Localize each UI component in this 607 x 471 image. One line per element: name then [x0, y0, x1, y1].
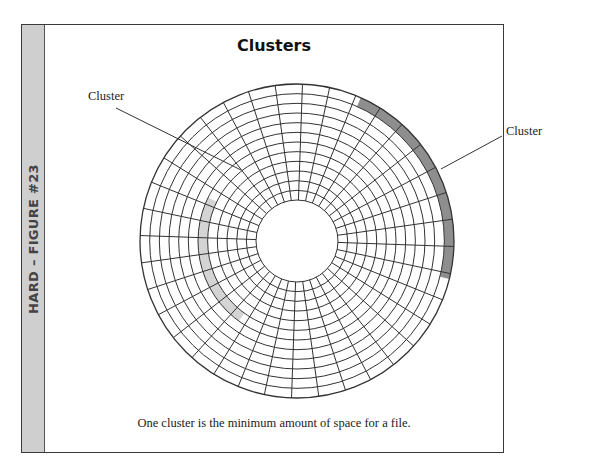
track-ring [150, 94, 445, 389]
right-cluster-label: Cluster [506, 124, 542, 139]
sector-line [333, 167, 435, 221]
sector-line [238, 279, 281, 387]
sector-line [338, 219, 453, 235]
sector-line [275, 86, 291, 201]
sector-line [223, 102, 277, 204]
right-leader-line [441, 136, 502, 169]
track-ring [217, 161, 376, 320]
left-leader-line [116, 108, 241, 170]
spindle-hole [256, 200, 338, 282]
sector-line [316, 277, 370, 379]
sector-line [335, 256, 443, 299]
track-ring [246, 190, 347, 291]
sector-line [312, 95, 355, 203]
track-ring [237, 181, 358, 302]
disk-diagram [0, 0, 607, 471]
track-ring [227, 171, 367, 311]
sector-line [303, 282, 319, 397]
track-ring [179, 123, 416, 360]
track-ring [208, 152, 387, 331]
left-cluster-label: Cluster [88, 89, 124, 104]
track-ring [188, 132, 405, 349]
